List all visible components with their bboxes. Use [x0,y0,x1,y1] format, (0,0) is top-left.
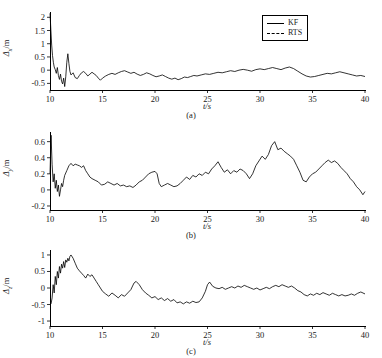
x-tick-label: 35 [308,331,317,340]
series-layer-b [0,120,382,240]
legend-line-dashed-icon [267,29,284,37]
y-tick-label: 0.2 [0,170,45,179]
y-tick-label: 0.5 [0,267,45,276]
x-tick-label: 20 [151,95,160,104]
x-tick-label: 20 [151,331,160,340]
series-layer-a [0,0,382,120]
y-tick-label: -1 [0,317,45,326]
y-tick-label: -0.2 [0,202,45,211]
x-tick-label: 10 [46,95,55,104]
legend-box: KF RTS [262,15,308,41]
x-axis-label-b: t/s [203,221,211,231]
x-tick-label: 35 [308,215,317,224]
x-tick-label: 30 [256,95,265,104]
data-series-line [50,255,365,305]
legend-line-solid-icon [267,19,284,27]
panel-caption-c: (c) [186,346,195,356]
y-tick-label: 0.6 [0,137,45,146]
y-tick-label: 1 [0,251,45,260]
panel-caption-a: (a) [186,110,195,120]
x-tick-label: 35 [308,95,317,104]
y-tick-label: -0.5 [0,300,45,309]
chart-panel-b: Δy/m -0.200.20.40.610152025303540 t/s (b… [0,120,382,240]
legend-label-rts: RTS [288,29,302,37]
x-tick-label: 30 [256,331,265,340]
y-tick-label: 0 [0,66,45,75]
y-tick-label: -0.5 [0,79,45,88]
x-axis-label-c: t/s [203,337,211,347]
figure-root: Δx/m -0.500.511.5210152025303540 t/s (a)… [0,0,382,358]
x-tick-label: 40 [361,215,370,224]
legend-label-kf: KF [288,19,298,27]
x-tick-label: 15 [98,215,107,224]
y-tick-label: 1 [0,39,45,48]
chart-panel-c: Δz/m -1-0.500.5110152025303540 t/s (c) [0,240,382,358]
data-series-line [50,135,365,196]
x-tick-label: 20 [151,215,160,224]
x-axis-label-a: t/s [203,101,211,111]
y-tick-label: 0 [0,186,45,195]
legend-entry-kf: KF [267,18,302,28]
panel-caption-b: (b) [186,230,196,240]
legend-entry-rts: RTS [267,28,302,38]
data-series-line [50,13,365,86]
y-tick-label: 1.5 [0,26,45,35]
y-tick-label: 0 [0,284,45,293]
x-axis-label-text-a: t/s [203,101,211,111]
chart-panel-a: Δx/m -0.500.511.5210152025303540 t/s (a)… [0,0,382,120]
y-tick-label: 0.4 [0,153,45,162]
x-tick-label: 40 [361,331,370,340]
y-tick-label: 0.5 [0,53,45,62]
x-tick-label: 10 [46,215,55,224]
x-tick-label: 40 [361,95,370,104]
x-tick-label: 15 [98,95,107,104]
x-tick-label: 15 [98,331,107,340]
x-axis-label-text-b: t/s [203,221,211,231]
x-tick-label: 30 [256,215,265,224]
x-tick-label: 10 [46,331,55,340]
x-axis-label-text-c: t/s [203,337,211,347]
series-layer-c [0,240,382,358]
y-tick-label: 2 [0,13,45,22]
